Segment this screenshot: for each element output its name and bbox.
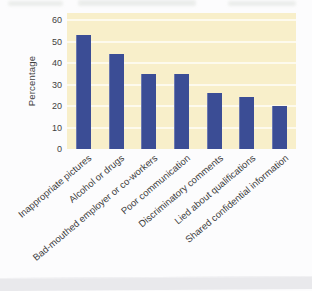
x-tick-label: Bad-mouthed employer or co-workers (31, 153, 159, 263)
page-edge (0, 276, 312, 291)
